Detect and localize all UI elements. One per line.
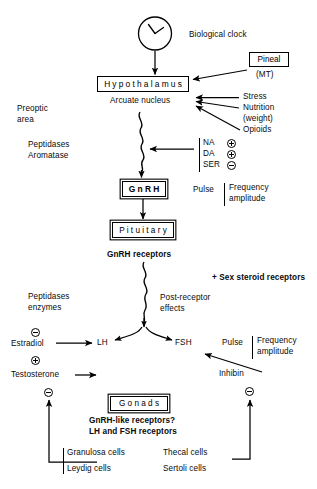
hpg-axis-diagram: Hypothalamus Pineal G n R H P i t u i t … [0,0,317,489]
peptidases-label-2: Peptidases [28,292,70,303]
nt-na-label: NA [203,138,215,149]
hypothalamus-label: Hypothalamus [102,79,184,89]
inhibin-negative-sign [245,387,254,396]
nt-da-label: DA [203,149,215,160]
biological-clock-icon [139,17,172,50]
sertoli-cells-label: Sertoli cells [163,464,206,475]
weight-label: (weight) [243,114,273,125]
pituitary-receptor-axon [143,262,147,322]
inhibin-label: Inhibin [219,369,244,380]
biological-clock-label: Biological clock [189,30,247,41]
pineal-sublabel: (MT) [256,70,274,81]
pulse-hypothalamic-frequency: Frequency [229,183,269,194]
node-gnrh: G n R H [122,181,166,197]
arrow-pineal-to-hypothalamus [193,70,247,80]
pulse-gonadotropin-frequency: Frequency [257,336,297,347]
post-receptor-effects-line2: effects [160,304,185,315]
arrow-nutrition-to-hypothalamus [196,102,239,109]
pulse-hypothalamic-amplitude: amplitude [229,194,265,205]
aromatase-label: Aromatase [28,151,69,162]
pituitary-label: P i t u i t a r y [119,226,167,235]
gonads-label: G o n a d s [119,399,159,408]
testosterone-positive-sign [31,356,40,365]
node-hypothalamus: Hypothalamus [97,76,189,92]
neurotransmitter-group-rule [199,138,200,172]
pineal-label: Pineal [258,55,281,64]
arcuate-nucleus-label: Arcuate nucleus [110,96,170,107]
estradiol-label: Estradiol [11,339,44,350]
nt-na-sign [227,139,236,148]
preoptic-label: Preoptic [17,104,48,115]
thecal-cells-label: Thecal cells [163,448,207,459]
granulosa-cells-label: Granulosa cells [67,448,125,459]
curve-to-fsh [146,327,172,340]
pulse-hypothalamic-rule [224,183,225,206]
nt-da-sign [227,150,236,159]
stress-label: Stress [243,92,267,103]
node-pituitary: P i t u i t a r y [112,222,174,238]
feedback-loop-right [232,400,250,459]
pulse-gonadotropin-rule [252,336,253,359]
area-label: area [17,115,34,126]
pulse-gonadotropin-label: Pulse [222,338,243,349]
node-gonads: G o n a d s [110,396,168,411]
sex-steroid-receptors-label: + Sex steroid receptors [212,273,305,284]
arrow-opioids-to-hypothalamus [196,106,240,130]
pulse-hypothalamic-label: Pulse [193,185,214,196]
nt-ser-label: SER [203,160,220,171]
opioids-label: Opioids [243,125,271,136]
leydig-cells-label: Leydig cells [67,464,111,475]
gnrh-receptors-label: GnRH receptors [107,250,171,261]
node-pineal: Pineal [249,52,289,67]
fsh-label: FSH [175,338,192,349]
lh-label: LH [97,338,108,349]
curve-to-lh [115,327,142,340]
peptidases-label-1: Peptidases [28,140,70,151]
enzymes-label: enzymes [28,303,61,314]
testosterone-negative-sign [44,388,53,397]
gonad-detail-line1: GnRH-like receptors? [89,416,175,427]
gnrh-label: G n R H [129,184,160,194]
gonad-detail-line2: LH and FSH receptors [89,427,177,438]
hypothalamic-neuron-axon [139,112,144,172]
testosterone-label: Testosterone [11,370,59,381]
pulse-gonadotropin-amplitude: amplitude [257,347,293,358]
estradiol-negative-sign [31,328,40,337]
nutrition-label: Nutrition [243,103,274,114]
nt-ser-sign [227,161,236,170]
ovarian-cells-rule [63,448,64,474]
post-receptor-effects-line1: Post-receptor [160,293,210,304]
